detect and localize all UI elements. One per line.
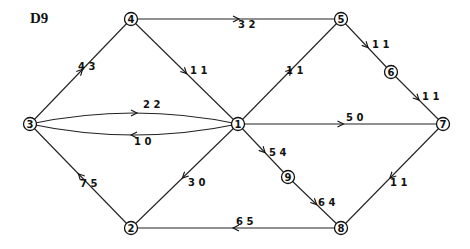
edge-label: 1 1: [190, 65, 207, 76]
graph-canvas: 4 33 21 11 11 11 12 21 05 05 46 41 16 53…: [0, 0, 470, 249]
edge-label: 3 2: [238, 19, 255, 30]
svg-text:3: 3: [27, 119, 34, 130]
edge-label: 7 5: [80, 178, 97, 189]
edge-label: 6 5: [236, 216, 253, 227]
svg-text:1: 1: [235, 119, 242, 130]
svg-text:2: 2: [128, 223, 135, 234]
svg-text:4: 4: [128, 14, 135, 25]
edge-label: 1 1: [422, 91, 439, 102]
node-5: 5: [335, 13, 348, 26]
edge-2-3: [30, 124, 131, 228]
edge-label: 6 4: [318, 197, 335, 208]
edge-label: 5 4: [269, 147, 286, 158]
svg-text:7: 7: [440, 119, 447, 130]
node-9: 9: [282, 171, 295, 184]
edge-labels-layer: 4 33 21 11 11 11 12 21 05 05 46 41 16 53…: [78, 19, 439, 227]
edge-label: 1 1: [390, 177, 407, 188]
svg-text:9: 9: [285, 172, 292, 183]
edge-label: 2 2: [143, 99, 160, 110]
node-2: 2: [125, 222, 138, 235]
node-7: 7: [437, 118, 450, 131]
edge-label: 1 1: [286, 65, 303, 76]
node-3: 3: [24, 118, 37, 131]
svg-text:6: 6: [388, 67, 395, 78]
edge-label: 3 0: [188, 177, 205, 188]
svg-text:5: 5: [338, 14, 345, 25]
edge-label: 1 0: [134, 136, 151, 147]
edge-label: 5 0: [346, 112, 363, 123]
node-6: 6: [385, 66, 398, 79]
edge-label: 1 1: [372, 39, 389, 50]
edge-label: 4 3: [78, 61, 95, 72]
node-4: 4: [125, 13, 138, 26]
svg-text:8: 8: [338, 223, 345, 234]
node-8: 8: [335, 222, 348, 235]
node-1: 1: [232, 118, 245, 131]
edge-7-8: [341, 124, 443, 228]
